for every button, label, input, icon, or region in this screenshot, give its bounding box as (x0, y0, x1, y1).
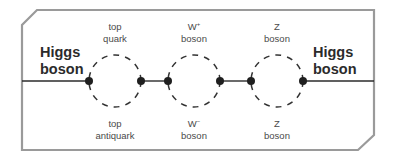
label-line: boson (247, 130, 307, 142)
label-line: boson (247, 33, 307, 45)
label-line: Z (247, 118, 307, 130)
particle-symbol: W (188, 118, 197, 129)
label-line: boson (313, 61, 357, 78)
charge-sup: − (197, 118, 201, 124)
top-quark-loop (89, 55, 141, 107)
z-boson-top-label: Z boson (247, 21, 307, 45)
label-line: antiquark (85, 130, 145, 142)
label-line: boson (40, 61, 84, 78)
label-line: Higgs (313, 44, 357, 61)
label-line: Z (247, 21, 307, 33)
label-line: W+ (164, 21, 224, 33)
vertices (85, 77, 307, 85)
label-line: boson (164, 33, 224, 45)
top-quark-label: top quark (85, 21, 145, 45)
w-plus-boson-label: W+ boson (164, 21, 224, 45)
z-boson-bottom-label: Z boson (247, 118, 307, 142)
left-higgs-label: Higgs boson (40, 44, 84, 78)
label-line: Higgs (40, 44, 84, 61)
w-boson-loop (168, 55, 220, 107)
label-line: boson (164, 130, 224, 142)
vertex-dot (247, 77, 255, 85)
label-line: quark (85, 33, 145, 45)
vertex-dot (299, 77, 307, 85)
particle-symbol: W (188, 21, 197, 32)
right-higgs-label: Higgs boson (313, 44, 357, 78)
label-line: W− (164, 118, 224, 130)
label-line: top (85, 21, 145, 33)
w-minus-boson-label: W− boson (164, 118, 224, 142)
vertex-dot (216, 77, 224, 85)
top-antiquark-label: top antiquark (85, 118, 145, 142)
vertex-dot (164, 77, 172, 85)
charge-sup: + (197, 21, 201, 27)
label-line: top (85, 118, 145, 130)
vertex-dot (85, 77, 93, 85)
vertex-dot (137, 77, 145, 85)
z-boson-loop (251, 55, 303, 107)
